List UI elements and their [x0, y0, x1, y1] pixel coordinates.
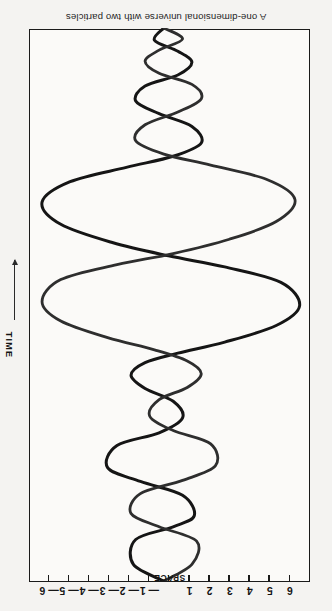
space-axis-tick [168, 575, 169, 582]
space-axis-tick [48, 575, 49, 582]
space-axis-tick-label: — 4 [80, 585, 99, 597]
space-axis-tick [88, 575, 89, 582]
space-axis-tick-label: 6 [287, 585, 293, 597]
space-axis-tick [289, 575, 290, 582]
space-axis-tick-label: — 1 [140, 585, 159, 597]
space-axis-tick [128, 575, 129, 582]
space-axis-tick-label: — 3 [100, 585, 119, 597]
space-axis-tick-label: — 5 [60, 585, 79, 597]
particle-1-worldline [42, 28, 300, 581]
space-axis-tick-label: 5 [267, 585, 273, 597]
space-axis-tick [188, 575, 189, 582]
particle-2-worldline [42, 28, 295, 581]
space-axis-tick [208, 575, 209, 582]
space-axis-tick [268, 575, 269, 582]
space-axis-tick [148, 575, 149, 582]
space-axis-title: SPACE [154, 573, 186, 583]
space-axis-tick [228, 575, 229, 582]
space-axis-tick [248, 575, 249, 582]
time-axis-title: TIME [4, 325, 14, 365]
space-axis-tick [68, 575, 69, 582]
space-axis-tick-label: 1 [187, 585, 193, 597]
space-axis-tick-label: — 2 [120, 585, 139, 597]
time-axis: TIME [5, 246, 23, 356]
figure-caption: A one-dimensional universe with two part… [0, 12, 332, 23]
plot-frame [29, 29, 310, 582]
space-axis-tick-label: 3 [227, 585, 233, 597]
space-axis-tick-label: 2 [207, 585, 213, 597]
scanned-figure-page: SPACE 654321— 1— 2— 3— 4— 5— 6 TIME A on… [0, 0, 332, 611]
space-axis-tick-label: 4 [247, 585, 253, 597]
space-axis-tick-label: — 6 [39, 585, 58, 597]
space-axis-tick [108, 575, 109, 582]
worldline-curves [28, 28, 309, 581]
time-direction-arrow [14, 260, 15, 320]
